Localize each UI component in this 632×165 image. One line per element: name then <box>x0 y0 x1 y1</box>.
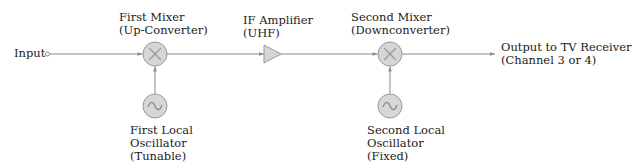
second-oscillator-label: Second Local Oscillator (Fixed) <box>367 124 445 163</box>
if-amplifier-label: IF Amplifier (UHF) <box>243 14 313 40</box>
second-mixer-label: Second Mixer (Downconverter) <box>351 11 450 37</box>
input-terminal <box>46 52 50 56</box>
first-mixer-label: First Mixer (Up-Converter) <box>119 11 208 37</box>
first-oscillator-label: First Local Oscillator (Tunable) <box>130 124 193 163</box>
input-label: Input <box>14 47 45 60</box>
second-mixer <box>378 42 402 66</box>
output-label: Output to TV Receiver (Channel 3 or 4) <box>501 41 632 67</box>
if-amplifier <box>264 45 281 63</box>
second-local-oscillator <box>378 94 402 118</box>
first-mixer <box>143 42 167 66</box>
first-local-oscillator <box>143 94 167 118</box>
